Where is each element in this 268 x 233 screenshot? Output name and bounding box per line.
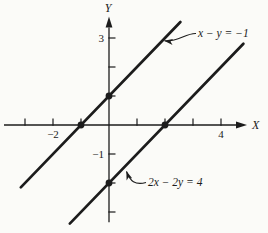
plot-contents: −243−1x − y = −12x − 2y = 4: [4, 17, 249, 224]
y-axis-arrowhead-icon: [106, 17, 113, 28]
annotation-arrow-2: [127, 172, 147, 184]
equation-label-1: x − y = −1: [197, 27, 249, 40]
plotted-point-(0,1): [106, 93, 113, 100]
y-tick-label-3: 3: [99, 32, 105, 44]
x-axis-label: X: [251, 118, 260, 132]
plotted-point-(2,0): [162, 122, 169, 129]
plotted-point-(0,-2): [106, 180, 113, 187]
x-axis-arrowhead-icon: [236, 122, 247, 129]
y-tick-label--1: −1: [92, 148, 104, 160]
plotted-point-(-1,0): [78, 122, 85, 129]
graph-figure: −243−1x − y = −12x − 2y = 4 X Y: [0, 0, 268, 233]
graph-line-1: [21, 22, 181, 187]
y-axis-label: Y: [105, 1, 113, 15]
coordinate-plane: −243−1x − y = −12x − 2y = 4 X Y: [0, 0, 268, 233]
x-tick-label--2: −2: [47, 128, 59, 140]
equation-label-2: 2x − 2y = 4: [148, 176, 203, 189]
x-tick-label-4: 4: [218, 128, 224, 140]
